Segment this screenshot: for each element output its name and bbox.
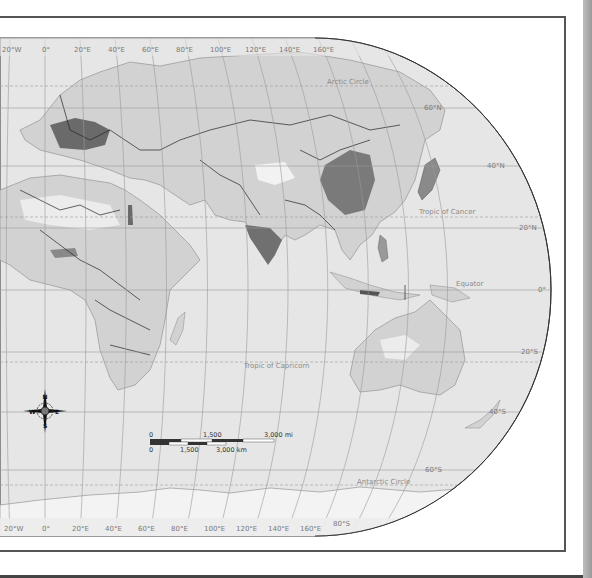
svg-text:E: E xyxy=(55,408,59,415)
svg-text:0°: 0° xyxy=(42,46,50,54)
svg-text:0: 0 xyxy=(149,431,153,439)
svg-text:100°E: 100°E xyxy=(210,46,231,54)
svg-text:3,000 mi: 3,000 mi xyxy=(264,431,293,439)
svg-text:40°S: 40°S xyxy=(489,408,506,416)
world-map: 20°W 0° 20°E 40°E 60°E 80°E 100°E 120°E … xyxy=(0,0,592,578)
svg-text:140°E: 140°E xyxy=(279,46,300,54)
svg-text:Antarctic Circle: Antarctic Circle xyxy=(357,478,410,486)
svg-text:20°W: 20°W xyxy=(2,46,21,54)
svg-text:Tropic of Capricorn: Tropic of Capricorn xyxy=(243,362,309,370)
svg-text:40°E: 40°E xyxy=(105,525,122,533)
svg-text:Arctic Circle: Arctic Circle xyxy=(327,78,369,86)
svg-text:1,500: 1,500 xyxy=(203,431,222,439)
svg-text:40°N: 40°N xyxy=(487,162,505,170)
svg-text:60°E: 60°E xyxy=(138,525,155,533)
svg-text:80°E: 80°E xyxy=(171,525,188,533)
svg-text:160°E: 160°E xyxy=(313,46,334,54)
svg-text:120°E: 120°E xyxy=(236,525,257,533)
svg-text:80°E: 80°E xyxy=(176,46,193,54)
svg-text:140°E: 140°E xyxy=(268,525,289,533)
svg-text:20°N: 20°N xyxy=(519,224,537,232)
svg-text:20°E: 20°E xyxy=(72,525,89,533)
svg-text:N: N xyxy=(43,393,48,400)
svg-text:3,000 km: 3,000 km xyxy=(216,446,247,454)
svg-text:60°E: 60°E xyxy=(142,46,159,54)
svg-text:0°: 0° xyxy=(538,286,546,294)
svg-text:20°S: 20°S xyxy=(521,348,538,356)
svg-text:S: S xyxy=(43,422,47,429)
svg-text:0: 0 xyxy=(149,446,153,454)
svg-text:60°N: 60°N xyxy=(424,104,442,112)
svg-text:0°: 0° xyxy=(42,525,50,533)
svg-text:Tropic of Cancer: Tropic of Cancer xyxy=(418,208,475,216)
svg-text:Equator: Equator xyxy=(456,280,484,288)
svg-text:W: W xyxy=(29,408,36,415)
svg-text:80°S: 80°S xyxy=(333,520,350,528)
svg-text:20°E: 20°E xyxy=(74,46,91,54)
svg-text:40°E: 40°E xyxy=(108,46,125,54)
svg-text:1,500: 1,500 xyxy=(180,446,199,454)
svg-text:60°S: 60°S xyxy=(425,466,442,474)
svg-text:100°E: 100°E xyxy=(204,525,225,533)
svg-text:20°W: 20°W xyxy=(4,525,23,533)
svg-text:120°E: 120°E xyxy=(245,46,266,54)
svg-text:160°E: 160°E xyxy=(300,525,321,533)
